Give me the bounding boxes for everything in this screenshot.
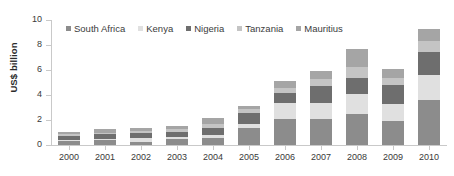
bar-segment bbox=[58, 136, 80, 140]
bar-segment bbox=[418, 75, 440, 100]
legend-label: Kenya bbox=[146, 24, 173, 34]
bar-segment bbox=[310, 71, 332, 79]
bar-stack bbox=[130, 20, 152, 145]
bar-stack bbox=[238, 20, 260, 145]
legend-swatch-icon bbox=[237, 26, 242, 31]
bar-segment bbox=[382, 121, 404, 145]
bar-stack bbox=[310, 20, 332, 145]
bar-segment bbox=[166, 137, 188, 140]
legend-label: Mauritius bbox=[304, 24, 343, 34]
bar-stack bbox=[202, 20, 224, 145]
chart-legend: South AfricaKenyaNigeriaTanzaniaMauritiu… bbox=[66, 24, 343, 34]
bar-stack bbox=[418, 20, 440, 145]
bar-segment bbox=[382, 104, 404, 122]
x-axis-tick-label: 2006 bbox=[267, 152, 303, 162]
stacked-bar-chart: US$ billion 0246810 20002001200220032004… bbox=[0, 0, 454, 176]
bar-stack bbox=[382, 20, 404, 145]
bar-segment bbox=[202, 138, 224, 145]
bar-segment bbox=[418, 41, 440, 52]
y-axis-tick-label: 10 bbox=[20, 14, 42, 24]
bar-segment bbox=[166, 139, 188, 145]
bar-segment bbox=[94, 133, 116, 135]
bar-segment bbox=[310, 86, 332, 102]
x-axis-tick bbox=[141, 146, 142, 150]
bar-segment bbox=[274, 88, 296, 93]
legend-item[interactable]: Mauritius bbox=[296, 24, 343, 34]
x-axis-tick bbox=[177, 146, 178, 150]
x-axis-tick-label: 2005 bbox=[231, 152, 267, 162]
bar-segment bbox=[346, 94, 368, 115]
bar-segment bbox=[130, 133, 152, 138]
bar-stack bbox=[58, 20, 80, 145]
bar-segment bbox=[58, 134, 80, 136]
y-axis-tick-label: 4 bbox=[20, 89, 42, 99]
x-axis-tick-label: 2010 bbox=[411, 152, 447, 162]
legend-item[interactable]: South Africa bbox=[66, 24, 125, 34]
bar-stack bbox=[94, 20, 116, 145]
bar-segment bbox=[274, 93, 296, 104]
bar-segment bbox=[202, 135, 224, 138]
x-axis-tick-label: 2009 bbox=[375, 152, 411, 162]
bar-segment bbox=[130, 138, 152, 142]
x-axis-tick bbox=[393, 146, 394, 150]
legend-swatch-icon bbox=[66, 26, 71, 31]
y-axis-tick-label: 0 bbox=[20, 139, 42, 149]
x-axis-tick bbox=[357, 146, 358, 150]
bar-segment bbox=[274, 103, 296, 119]
bar-segment bbox=[166, 129, 188, 132]
bar-stack bbox=[346, 20, 368, 145]
bar-segment bbox=[346, 49, 368, 67]
x-axis-tick-label: 2007 bbox=[303, 152, 339, 162]
plot-area bbox=[51, 20, 447, 145]
bar-segment bbox=[238, 113, 260, 125]
bar-stack bbox=[274, 20, 296, 145]
legend-item[interactable]: Kenya bbox=[138, 24, 173, 34]
bar-segment bbox=[346, 78, 368, 94]
legend-item[interactable]: Tanzania bbox=[237, 24, 283, 34]
bar-segment bbox=[130, 128, 152, 131]
x-axis-tick bbox=[213, 146, 214, 150]
x-axis-tick-label: 2000 bbox=[51, 152, 87, 162]
bar-segment bbox=[202, 124, 224, 128]
y-axis-tick-label: 8 bbox=[20, 39, 42, 49]
legend-label: South Africa bbox=[74, 24, 125, 34]
bar-segment bbox=[274, 81, 296, 87]
y-axis-tick-label: 6 bbox=[20, 64, 42, 74]
bar-segment bbox=[58, 132, 80, 135]
bar-segment bbox=[382, 78, 404, 86]
x-axis-tick bbox=[321, 146, 322, 150]
bar-segment bbox=[346, 114, 368, 145]
bar-segment bbox=[238, 128, 260, 146]
bar-segment bbox=[130, 142, 152, 145]
x-axis-tick bbox=[69, 146, 70, 150]
bar-segment bbox=[94, 140, 116, 145]
legend-item[interactable]: Nigeria bbox=[186, 24, 224, 34]
legend-swatch-icon bbox=[186, 26, 191, 31]
x-axis-tick bbox=[249, 146, 250, 150]
bar-stack bbox=[166, 20, 188, 145]
bar-segment bbox=[238, 106, 260, 110]
bar-segment bbox=[202, 128, 224, 135]
y-axis-title: US$ billion bbox=[8, 33, 19, 103]
bar-segment bbox=[382, 85, 404, 104]
bar-segment bbox=[418, 52, 440, 75]
bar-segment bbox=[310, 79, 332, 86]
bar-segment bbox=[130, 131, 152, 134]
x-axis-tick-label: 2001 bbox=[87, 152, 123, 162]
bar-segment bbox=[94, 134, 116, 138]
x-axis-tick bbox=[429, 146, 430, 150]
x-axis-tick-label: 2008 bbox=[339, 152, 375, 162]
bar-segment bbox=[310, 103, 332, 119]
bar-segment bbox=[238, 109, 260, 112]
legend-swatch-icon bbox=[138, 26, 143, 31]
legend-label: Tanzania bbox=[245, 24, 283, 34]
x-axis-tick-label: 2003 bbox=[159, 152, 195, 162]
bar-segment bbox=[274, 119, 296, 145]
x-axis-tick bbox=[285, 146, 286, 150]
bar-segment bbox=[94, 129, 116, 132]
bar-segment bbox=[166, 132, 188, 137]
y-axis-tick bbox=[46, 145, 51, 146]
bar-segment bbox=[94, 139, 116, 141]
bar-segment bbox=[202, 118, 224, 124]
bar-segment bbox=[346, 67, 368, 78]
